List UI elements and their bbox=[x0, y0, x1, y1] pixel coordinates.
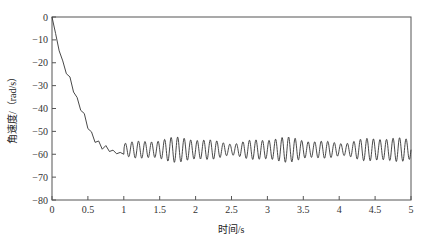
x-tick-label: 4.5 bbox=[369, 204, 382, 215]
x-axis-ticks: 00.511.522.533.544.55 bbox=[50, 196, 414, 215]
x-tick-label: 3.5 bbox=[297, 204, 310, 215]
y-tick-label: −60 bbox=[32, 149, 48, 160]
x-tick-label: 3 bbox=[265, 204, 270, 215]
y-tick-label: −50 bbox=[32, 126, 48, 137]
y-tick-label: −30 bbox=[32, 80, 48, 91]
x-tick-label: 0.5 bbox=[82, 204, 95, 215]
y-tick-label: 0 bbox=[43, 12, 48, 23]
x-tick-label: 1.5 bbox=[153, 204, 166, 215]
y-tick-label: −10 bbox=[32, 34, 48, 45]
y-tick-label: −40 bbox=[32, 103, 48, 114]
x-tick-label: 2.5 bbox=[225, 204, 238, 215]
y-tick-label: −70 bbox=[32, 172, 48, 183]
x-tick-label: 1 bbox=[121, 204, 126, 215]
plot-frame bbox=[52, 17, 411, 200]
x-tick-label: 5 bbox=[409, 204, 414, 215]
y-tick-label: −20 bbox=[32, 57, 48, 68]
x-tick-label: 4 bbox=[337, 204, 342, 215]
x-axis-label: 时间/s bbox=[218, 223, 245, 235]
data-line bbox=[52, 17, 411, 162]
y-axis-label: 角速度/（rad/s） bbox=[6, 72, 18, 144]
y-tick-label: −80 bbox=[32, 195, 48, 206]
x-tick-label: 0 bbox=[50, 204, 55, 215]
angular-velocity-chart: 0−10−20−30−40−50−60−70−80 00.511.522.533… bbox=[0, 0, 428, 240]
x-tick-label: 2 bbox=[193, 204, 198, 215]
